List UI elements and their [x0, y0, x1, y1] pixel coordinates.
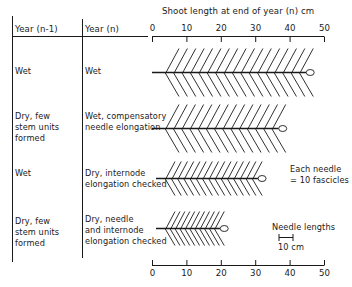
needle-upper [176, 212, 185, 229]
needle-lower [255, 129, 269, 153]
needle-upper [174, 105, 187, 129]
needle-lower [249, 73, 263, 97]
needle-upper [275, 49, 288, 73]
needle-upper [248, 105, 261, 129]
needle-upper [182, 105, 195, 129]
needle-upper [225, 49, 238, 73]
needle-lower [182, 73, 196, 97]
needle-lower [207, 73, 221, 97]
needle-upper [166, 212, 175, 229]
needle-lower [196, 179, 206, 196]
needle-lower [209, 229, 219, 246]
needle-lower [247, 129, 261, 153]
axis-tick-label: 40 [285, 268, 296, 279]
needle-lower [215, 73, 229, 97]
needle-lower [190, 229, 200, 246]
axis-tick-label: 0 [150, 268, 156, 279]
terminal-bud-icon [306, 70, 314, 76]
needle-lower [233, 179, 243, 196]
row-2-curr-condition: Wet, compensatory needle elongation [85, 111, 166, 133]
needle-lower [199, 229, 209, 246]
needle-upper [223, 105, 236, 129]
terminal-bud-icon [258, 176, 266, 182]
terminal-bud-icon [279, 126, 287, 132]
needle-lower [222, 129, 236, 153]
needle-lower [204, 229, 214, 246]
needle-lower [170, 229, 180, 246]
needle-lower [246, 179, 256, 196]
needle-upper [181, 212, 190, 229]
needle-lower [173, 73, 187, 97]
needle-upper [273, 105, 286, 129]
row-4-curr-condition: Dry, needle and internode elongation che… [85, 214, 167, 247]
needle-upper [300, 49, 313, 73]
axis-tick-label: 20 [216, 23, 227, 34]
needle-lower [195, 229, 205, 246]
needle-scale-bar [279, 234, 293, 241]
needle-upper [196, 212, 205, 229]
column-header-year-curr: Year (n) [85, 24, 119, 35]
needle-lower [291, 73, 305, 97]
row-4-prev-condition: Dry, few stem units formed [15, 216, 59, 249]
needle-lower [165, 73, 179, 97]
needle-upper [191, 49, 204, 73]
needle-lower [181, 129, 195, 153]
needle-lower [199, 73, 213, 97]
needle-upper [233, 49, 246, 73]
needle-lower [184, 179, 194, 196]
column-header-year-prev: Year (n-1) [15, 24, 58, 35]
needle-lower [177, 179, 187, 196]
shoot-row-4 [156, 212, 228, 246]
needle-upper [216, 49, 229, 73]
axis-tick-label: 30 [250, 23, 261, 34]
needle-upper [191, 212, 200, 229]
needle-lower [175, 229, 185, 246]
needle-upper [210, 212, 219, 229]
row-1-prev-condition: Wet [15, 66, 31, 77]
axis-tick-label: 0 [150, 23, 156, 34]
axis-tick-label: 50 [319, 23, 330, 34]
needle-lower [299, 73, 313, 97]
needle-upper [207, 105, 220, 129]
row-2-prev-condition: Dry, few stem units formed [15, 111, 59, 144]
row-3-prev-condition: Wet [15, 168, 31, 179]
terminal-bud-icon [220, 226, 228, 232]
needle-lower [209, 179, 219, 196]
needle-upper [258, 49, 271, 73]
needle-lower [272, 129, 286, 153]
shoot-row-2 [152, 105, 287, 153]
needle-upper [174, 49, 187, 73]
needle-lower [214, 129, 228, 153]
needle-upper [200, 212, 209, 229]
row-3-curr-condition: Dry, internode elongation checked [85, 168, 167, 190]
needle-upper [183, 49, 196, 73]
axis-title: Shoot length at end of year (n) cm [162, 6, 314, 17]
needle-upper [208, 49, 221, 73]
needle-lower [190, 73, 204, 97]
shoot-row-1 [152, 49, 314, 97]
needle-lower [224, 73, 238, 97]
needle-upper [256, 105, 269, 129]
needle-lower [185, 229, 195, 246]
needle-upper [292, 49, 305, 73]
axis-tick-label: 10 [181, 268, 192, 279]
needle-upper [267, 49, 280, 73]
needle-lower [231, 129, 245, 153]
needle-upper [200, 49, 213, 73]
needle-lengths-title: Needle lengths [272, 222, 335, 233]
needle-lower [221, 179, 231, 196]
needle-lower [240, 179, 250, 196]
needle-lower [274, 73, 288, 97]
needle-upper [205, 212, 214, 229]
needle-lower [215, 179, 225, 196]
needle-upper [265, 105, 278, 129]
shoot-row-3 [156, 162, 266, 196]
needle-upper [283, 49, 296, 73]
needle-lower [202, 179, 212, 196]
needle-upper [199, 105, 212, 129]
needle-lower [241, 73, 255, 97]
needle-lower [239, 129, 253, 153]
needle-upper [250, 49, 263, 73]
needle-lower [266, 73, 280, 97]
axis-tick-label: 50 [319, 268, 330, 279]
